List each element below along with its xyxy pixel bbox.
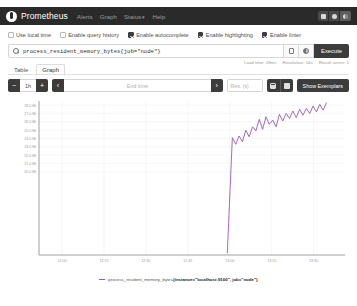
- tab-divider: [8, 74, 349, 75]
- use-local-time-checkbox[interactable]: [8, 32, 14, 38]
- filled-icon: [284, 83, 290, 89]
- chevron-down-icon: ▾: [142, 15, 145, 20]
- query-stats: Load time: 28ms Resolution: 14s Result s…: [244, 60, 349, 65]
- y-axis-tick-label: 27.0 Mi: [24, 112, 36, 116]
- step-backward-button[interactable]: ‹: [52, 79, 64, 92]
- enable-query-history-label: Enable query history: [68, 32, 119, 38]
- end-time-input[interactable]: End time: [64, 79, 211, 92]
- increase-range-button[interactable]: +: [36, 79, 48, 92]
- stat-resolution: Resolution: 14s: [282, 60, 312, 65]
- option-enable-linter[interactable]: Enable linter: [262, 32, 301, 38]
- nav-link-help[interactable]: Help: [152, 13, 165, 20]
- dark-theme-button[interactable]: [340, 11, 351, 21]
- stacked-icon: [270, 83, 276, 89]
- legend-metric-name: process_resident_memory_bytes: [108, 277, 173, 282]
- query-explorer-button[interactable]: [299, 44, 314, 58]
- prometheus-graph-page: Prometheus Alerts Graph Status▾ Help Use…: [0, 0, 357, 306]
- moon-icon: [343, 14, 348, 19]
- option-use-local-time[interactable]: Use local time: [8, 32, 51, 38]
- enable-linter-label: Enable linter: [270, 32, 301, 38]
- time-nav-group: ‹ End time ›: [52, 79, 223, 92]
- enable-linter-checkbox[interactable]: [262, 32, 268, 38]
- auto-theme-button[interactable]: [329, 11, 340, 21]
- chart-legend: process_resident_memory_bytes{instance="…: [0, 277, 357, 282]
- enable-highlighting-checkbox[interactable]: [198, 32, 204, 38]
- sun-icon: [321, 14, 326, 19]
- range-input[interactable]: 1h: [20, 79, 36, 92]
- y-axis-tick-label: 20.0 Mi: [24, 170, 36, 174]
- show-exemplars-button[interactable]: Show Exemplars: [297, 79, 349, 92]
- light-theme-button[interactable]: [318, 11, 329, 21]
- legend-label[interactable]: process_resident_memory_bytes{instance="…: [108, 277, 257, 282]
- y-axis-tick-label: 22.0 Mi: [24, 154, 36, 158]
- x-axis-tick-label: 12:30: [141, 259, 150, 263]
- prometheus-logo-icon: [6, 11, 17, 22]
- enable-query-history-checkbox[interactable]: [60, 32, 66, 38]
- x-axis-tick-label: 13:00: [225, 259, 234, 263]
- theme-toggle-group: [318, 11, 351, 21]
- list-icon: [289, 48, 294, 54]
- auto-icon: [332, 14, 337, 19]
- stat-load-time: Load time: 28ms: [244, 60, 276, 65]
- filled-chart-button[interactable]: [280, 79, 293, 92]
- search-icon: [13, 48, 19, 54]
- navbar: Prometheus Alerts Graph Status▾ Help: [0, 7, 357, 25]
- range-control-group: − 1h +: [8, 79, 48, 92]
- y-axis-tick-label: 23.0 Mi: [24, 145, 36, 149]
- enable-highlighting-label: Enable highlighting: [206, 32, 253, 38]
- option-enable-highlighting[interactable]: Enable highlighting: [198, 32, 253, 38]
- time-series-chart[interactable]: 28.0 Mi27.0 Mi26.0 Mi25.0 Mi24.0 Mi23.0 …: [8, 95, 349, 275]
- execute-button[interactable]: Execute: [314, 44, 349, 58]
- nav-link-alerts[interactable]: Alerts: [77, 13, 93, 20]
- nav-link-status-label: Status: [124, 13, 142, 20]
- y-axis-tick-label: 21.0 Mi: [24, 162, 36, 166]
- graph-controls: − 1h + ‹ End time › Res. (s) Show Exempl…: [8, 79, 349, 92]
- legend-color-swatch: [99, 279, 105, 281]
- globe-icon: [303, 48, 309, 54]
- y-axis-tick-label: 24.0 Mi: [24, 137, 36, 141]
- metrics-explorer-button[interactable]: [284, 44, 299, 58]
- nav-link-graph[interactable]: Graph: [100, 13, 117, 20]
- nav-link-status[interactable]: Status▾: [124, 13, 146, 20]
- y-axis-labels: 28.0 Mi27.0 Mi26.0 Mi25.0 Mi24.0 Mi23.0 …: [24, 104, 36, 175]
- brand-title: Prometheus: [21, 11, 68, 21]
- graph-panel[interactable]: 28.0 Mi27.0 Mi26.0 Mi25.0 Mi24.0 Mi23.0 …: [8, 95, 349, 275]
- option-enable-autocomplete[interactable]: Enable autocomplete: [128, 32, 189, 38]
- query-options-row: Use local time Enable query history Enab…: [8, 30, 349, 40]
- stacked-chart-button[interactable]: [267, 79, 280, 92]
- enable-autocomplete-checkbox[interactable]: [128, 32, 134, 38]
- y-gridlines: [39, 105, 345, 172]
- step-forward-button[interactable]: ›: [211, 79, 223, 92]
- y-axis-tick-label: 26.0 Mi: [24, 120, 36, 124]
- x-axis-tick-label: 13:30: [309, 259, 318, 263]
- y-axis-tick-label: 28.0 Mi: [24, 104, 36, 108]
- x-gridlines: [62, 101, 314, 255]
- nav-links: Alerts Graph Status▾ Help: [77, 13, 165, 20]
- option-enable-query-history[interactable]: Enable query history: [60, 32, 119, 38]
- enable-autocomplete-label: Enable autocomplete: [136, 32, 189, 38]
- query-expression-text: process_resident_memory_bytes{job="node"…: [23, 48, 161, 55]
- x-axis-tick-label: 12:00: [58, 259, 67, 263]
- y-axis-tick-label: 25.0 Mi: [24, 129, 36, 133]
- chart-style-group: [267, 79, 293, 92]
- x-axis-tick-label: 12:15: [99, 259, 108, 263]
- resolution-input[interactable]: Res. (s): [227, 79, 263, 92]
- x-axis-labels: 12:0012:1512:3012:4513:0013:1513:30: [58, 259, 319, 263]
- use-local-time-label: Use local time: [16, 32, 51, 38]
- stat-result-series: Result series: 1: [319, 60, 349, 65]
- query-row: process_resident_memory_bytes{job="node"…: [8, 44, 349, 58]
- decrease-range-button[interactable]: −: [8, 79, 20, 92]
- series-line: [227, 103, 326, 254]
- query-input[interactable]: process_resident_memory_bytes{job="node"…: [8, 44, 284, 58]
- legend-metric-labels: {instance="localhost:9100", job="node"}: [173, 277, 258, 282]
- x-axis-tick-label: 13:15: [267, 259, 276, 263]
- x-axis-tick-label: 12:45: [183, 259, 192, 263]
- navbar-right: [318, 11, 351, 21]
- brand[interactable]: Prometheus: [6, 11, 68, 22]
